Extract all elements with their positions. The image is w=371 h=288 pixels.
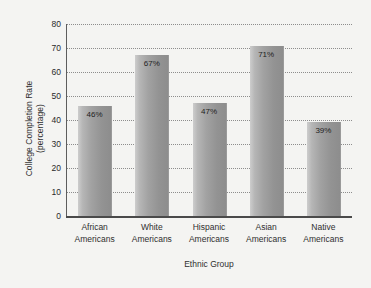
x-axis-category-label-line2: Americans xyxy=(290,234,356,246)
bar-value-label: 47% xyxy=(193,107,226,116)
bar-value-label: 46% xyxy=(78,110,111,119)
plot-area: 01020304050607080 46%67%47%71%39% xyxy=(66,24,352,216)
x-axis-category-label-line1: Asian xyxy=(233,222,299,234)
bar: 67% xyxy=(135,55,169,216)
x-axis-category-label: AfricanAmericans xyxy=(62,222,128,245)
bar-value-label: 67% xyxy=(135,59,168,68)
x-axis-category-label: HispanicAmericans xyxy=(176,222,242,245)
bar: 46% xyxy=(78,106,112,216)
y-axis-tick-label: 60 xyxy=(52,67,61,77)
y-axis-title: College Completion Rate (percentage) xyxy=(24,49,45,209)
y-axis-tick-label: 80 xyxy=(52,19,61,29)
bar-value-label: 71% xyxy=(250,50,283,59)
x-axis-category-label: AsianAmericans xyxy=(233,222,299,245)
bars-layer: 46%67%47%71%39% xyxy=(66,24,352,216)
bar: 47% xyxy=(193,103,227,216)
bar: 71% xyxy=(250,46,284,216)
x-axis-category-label: WhiteAmericans xyxy=(119,222,185,245)
y-axis-title-line1: College Completion Rate xyxy=(24,49,35,209)
x-axis-category-label: NativeAmericans xyxy=(290,222,356,245)
x-axis-category-labels: AfricanAmericansWhiteAmericansHispanicAm… xyxy=(66,222,352,254)
x-axis-category-label-line2: Americans xyxy=(176,234,242,246)
x-axis-category-label-line1: White xyxy=(119,222,185,234)
x-axis-category-label-line1: Native xyxy=(290,222,356,234)
y-axis-title-line2: (percentage) xyxy=(34,49,45,209)
y-axis-tick-label: 10 xyxy=(52,187,61,197)
y-axis-tick-label: 30 xyxy=(52,139,61,149)
x-axis-category-label-line2: Americans xyxy=(119,234,185,246)
bar-value-label: 39% xyxy=(307,126,340,135)
x-axis-category-label-line1: Hispanic xyxy=(176,222,242,234)
y-axis-tick-label: 50 xyxy=(52,91,61,101)
x-axis-title: Ethnic Group xyxy=(66,259,352,269)
y-axis-tick-label: 0 xyxy=(56,211,61,221)
x-axis-line xyxy=(66,216,352,218)
bar: 39% xyxy=(307,122,341,216)
x-axis-category-label-line1: African xyxy=(62,222,128,234)
y-axis-tick-label: 40 xyxy=(52,115,61,125)
y-axis-tick-label: 70 xyxy=(52,43,61,53)
x-axis-category-label-line2: Americans xyxy=(233,234,299,246)
x-axis-category-label-line2: Americans xyxy=(62,234,128,246)
bar-chart: College Completion Rate (percentage) 010… xyxy=(0,0,371,288)
y-axis-tick-label: 20 xyxy=(52,163,61,173)
